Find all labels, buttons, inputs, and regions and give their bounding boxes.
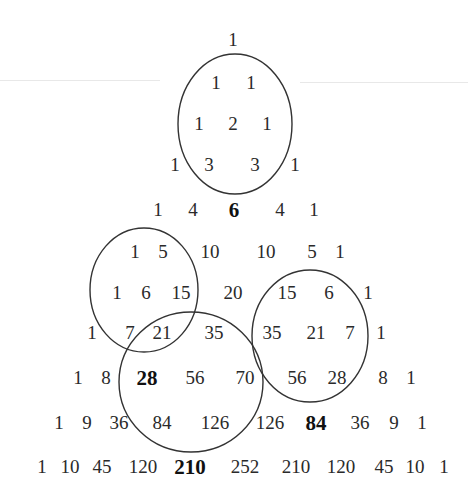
triangle-entry: 1 bbox=[246, 73, 256, 93]
triangle-entry: 1 bbox=[262, 114, 272, 134]
highlighted-entry: 6 bbox=[229, 200, 240, 220]
triangle-entry: 1 bbox=[54, 413, 64, 433]
triangle-entry: 1 bbox=[439, 457, 449, 477]
triangle-entry: 7 bbox=[125, 323, 135, 343]
triangle-entry: 1 bbox=[290, 155, 300, 175]
triangle-entry: 35 bbox=[263, 323, 282, 343]
triangle-entry: 1 bbox=[376, 323, 386, 343]
triangle-entry: 2 bbox=[228, 114, 238, 134]
triangle-entry: 20 bbox=[224, 283, 243, 303]
triangle-entry: 36 bbox=[110, 413, 129, 433]
triangle-entry: 1 bbox=[417, 413, 427, 433]
triangle-entry: 10 bbox=[406, 457, 425, 477]
triangle-entry: 36 bbox=[351, 413, 370, 433]
triangle-entry: 1 bbox=[73, 368, 83, 388]
triangle-entry: 3 bbox=[204, 155, 214, 175]
highlighted-entry: 210 bbox=[174, 457, 206, 477]
triangle-entry: 1 bbox=[112, 283, 122, 303]
triangle-entry: 9 bbox=[82, 413, 92, 433]
triangle-entry: 1 bbox=[153, 200, 163, 220]
triangle-entry: 5 bbox=[307, 242, 317, 262]
triangle-entry: 1 bbox=[406, 368, 416, 388]
pascal-triangle-diagram: 1111211331146411510105116152015611721353… bbox=[0, 0, 468, 502]
triangle-entry: 21 bbox=[307, 323, 326, 343]
triangle-entry: 1 bbox=[228, 30, 238, 50]
triangle-entry: 252 bbox=[231, 457, 260, 477]
triangle-entry: 6 bbox=[324, 283, 334, 303]
triangle-entry: 120 bbox=[327, 457, 356, 477]
triangle-entry: 4 bbox=[188, 200, 198, 220]
triangle-entry: 1 bbox=[309, 200, 319, 220]
triangle-entry: 1 bbox=[335, 242, 345, 262]
triangle-entry: 1 bbox=[363, 283, 373, 303]
triangle-entry: 3 bbox=[250, 155, 260, 175]
triangle-entry: 10 bbox=[201, 242, 220, 262]
triangle-entry: 15 bbox=[278, 283, 297, 303]
triangle-entry: 84 bbox=[153, 413, 172, 433]
triangle-entry: 56 bbox=[186, 368, 205, 388]
triangle-entry: 8 bbox=[101, 368, 111, 388]
triangle-entry: 10 bbox=[61, 457, 80, 477]
triangle-entry: 8 bbox=[378, 368, 388, 388]
triangle-entry: 9 bbox=[389, 413, 399, 433]
triangle-entry: 7 bbox=[345, 323, 355, 343]
triangle-entry: 1 bbox=[194, 114, 204, 134]
triangle-entry: 120 bbox=[129, 457, 158, 477]
triangle-entry: 15 bbox=[172, 283, 191, 303]
triangle-entry: 45 bbox=[375, 457, 394, 477]
triangle-entry: 1 bbox=[130, 242, 140, 262]
triangle-entry: 70 bbox=[236, 368, 255, 388]
triangle-entry: 28 bbox=[328, 368, 347, 388]
triangle-entry: 10 bbox=[257, 242, 276, 262]
triangle-entry: 1 bbox=[87, 323, 97, 343]
triangle-entry: 1 bbox=[211, 73, 221, 93]
highlighted-entry: 84 bbox=[306, 413, 327, 433]
triangle-entry: 6 bbox=[141, 283, 151, 303]
triangle-entry: 210 bbox=[282, 457, 311, 477]
triangle-entry: 4 bbox=[275, 200, 285, 220]
triangle-entry: 56 bbox=[288, 368, 307, 388]
triangle-entry: 21 bbox=[153, 323, 172, 343]
highlighted-entry: 28 bbox=[137, 368, 158, 388]
triangle-entry: 126 bbox=[256, 413, 285, 433]
triangle-entry: 5 bbox=[158, 242, 168, 262]
triangle-entry: 126 bbox=[201, 413, 230, 433]
triangle-entry: 1 bbox=[37, 457, 47, 477]
triangle-entry: 35 bbox=[205, 323, 224, 343]
triangle-entry: 1 bbox=[170, 155, 180, 175]
triangle-entry: 45 bbox=[93, 457, 112, 477]
